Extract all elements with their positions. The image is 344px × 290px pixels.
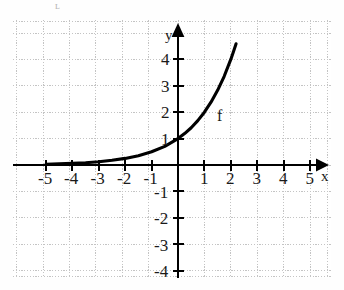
x-tick-label--5: -5	[38, 170, 52, 187]
curve-layer	[13, 20, 331, 278]
y-tick-label--2: -2	[154, 210, 168, 227]
x-tick-label-2: 2	[226, 170, 235, 187]
x-tick-label--4: -4	[64, 170, 78, 187]
figure-root: ʟ	[0, 0, 344, 290]
y-tick-label-2: 2	[161, 104, 170, 121]
y-axis-label: y	[165, 28, 173, 43]
x-tick-label-3: 3	[253, 170, 262, 187]
y-tick-label-3: 3	[161, 78, 170, 95]
function-curve-f	[46, 44, 236, 164]
x-tick-label--2: -2	[117, 170, 131, 187]
y-tick-label--1: -1	[154, 184, 168, 201]
y-tick-label--4: -4	[154, 263, 168, 280]
scan-artifact-glyph: ʟ	[55, 0, 60, 11]
x-tick-label-4: 4	[279, 170, 288, 187]
x-tick-label-5: 5	[306, 170, 315, 187]
x-tick-label--3: -3	[91, 170, 105, 187]
curve-label-f: f	[217, 108, 222, 124]
plot-area: -5 -4 -3 -2 -1 1 2 3 4 5 4 3 2 1 -1 -2 -…	[13, 20, 331, 278]
y-tick-label-1: 1	[161, 131, 170, 148]
y-tick-label-4: 4	[161, 51, 170, 68]
x-axis-label: x	[321, 169, 329, 184]
x-tick-label-1: 1	[200, 170, 209, 187]
y-tick-label--3: -3	[154, 237, 168, 254]
